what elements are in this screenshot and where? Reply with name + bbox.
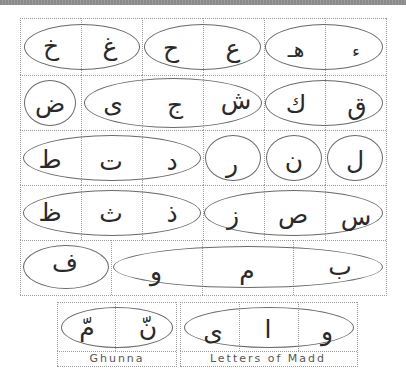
group-oval-throat-upper: [265, 24, 383, 70]
letter: ج: [167, 92, 183, 117]
letter: نّ: [139, 315, 157, 340]
letter: ا: [265, 317, 272, 342]
letter: ح: [163, 36, 179, 61]
letter: ث: [99, 201, 123, 226]
letter: ع: [226, 36, 241, 61]
letter: و: [150, 259, 162, 284]
letter: ظ: [38, 200, 61, 225]
letter: مّ: [79, 315, 94, 340]
letter: ى: [103, 91, 123, 116]
letter: م: [239, 258, 254, 283]
letter: خ: [43, 34, 59, 59]
group-oval-throat-middle: [144, 24, 261, 70]
letter: ر: [226, 151, 238, 176]
letter: ذ: [166, 201, 177, 226]
letter: ى: [203, 319, 223, 344]
letter: ف: [52, 250, 78, 275]
group-oval-throat-lower: [24, 24, 140, 70]
letter: ب: [328, 254, 352, 279]
letter: ز: [227, 203, 239, 228]
letter: ض: [35, 91, 65, 116]
letter: ط: [38, 147, 61, 172]
letter: ص: [278, 202, 308, 227]
letter: ن: [285, 148, 303, 173]
top-border-band: [0, 0, 406, 5]
letter: ش: [221, 88, 252, 113]
letter: ك: [286, 92, 307, 117]
letter: ت: [99, 149, 123, 174]
letter: س: [341, 204, 372, 229]
letter: د: [166, 149, 177, 174]
letter: ل: [346, 148, 364, 173]
letter: غ: [103, 34, 118, 59]
ghunna-label: Ghunna: [89, 352, 144, 365]
letter: و: [321, 319, 333, 344]
letter: هـ: [288, 40, 304, 60]
madd-label: Letters of Madd: [210, 352, 326, 365]
letter: ق: [347, 94, 366, 119]
letter: ء: [352, 44, 360, 60]
